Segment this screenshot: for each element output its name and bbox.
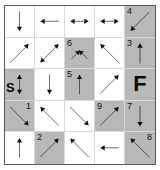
grid-cell-r5c3[interactable] <box>65 132 95 164</box>
cell-number-label: 8 <box>147 133 152 142</box>
arrow-up-icon <box>5 132 34 164</box>
grid-cell-r2c2[interactable] <box>35 38 65 70</box>
grid-cell-r3c4[interactable] <box>95 69 125 101</box>
arrow-left-right-icon <box>65 6 94 37</box>
grid-cell-r2c4[interactable] <box>95 38 125 70</box>
arrow-up-left-icon <box>35 101 64 132</box>
arrow-grid: 463S5F19728 <box>5 6 155 164</box>
grid-cell-r3c2[interactable] <box>35 69 65 101</box>
cell-number-label: 9 <box>97 102 102 111</box>
grid-cell-r1c2[interactable] <box>35 6 65 38</box>
arrow-down-right-icon <box>65 101 94 132</box>
grid-cell-r5c5[interactable]: 8 <box>125 132 155 164</box>
arrow-up-left-icon <box>95 38 124 69</box>
grid-cell-r1c4[interactable] <box>95 6 125 38</box>
cell-number-label: 2 <box>37 133 42 142</box>
grid-cell-r5c2[interactable]: 2 <box>35 132 65 164</box>
cell-number-label: 1 <box>26 102 31 111</box>
grid-cell-r4c4[interactable]: 9 <box>95 101 125 133</box>
arrow-up-right-down-left-icon <box>35 38 64 69</box>
arrow-down-icon <box>35 69 64 100</box>
finish-marker-label: F <box>133 73 146 95</box>
start-marker-label: S <box>6 81 15 94</box>
grid-cell-r4c5[interactable]: 7 <box>125 101 155 133</box>
grid-cell-r5c1[interactable] <box>5 132 35 164</box>
grid-cell-r3c1[interactable]: S <box>5 69 35 101</box>
grid-cell-r2c5[interactable]: 3 <box>125 38 155 70</box>
grid-cell-r1c5[interactable]: 4 <box>125 6 155 38</box>
arrow-left-right-icon <box>95 6 124 37</box>
cell-number-label: 5 <box>67 70 72 79</box>
grid-cell-r3c5[interactable]: F <box>125 69 155 101</box>
arrow-up-right-icon <box>5 38 34 69</box>
arrow-up-left-icon <box>65 132 94 164</box>
grid-cell-r1c1[interactable] <box>5 6 35 38</box>
grid-cell-r5c4[interactable] <box>95 132 125 164</box>
arrow-left-icon <box>95 132 124 164</box>
puzzle-frame: 463S5F19728 <box>4 5 156 165</box>
cell-number-label: 7 <box>127 102 132 111</box>
grid-cell-r1c3[interactable] <box>65 6 95 38</box>
arrow-left-icon <box>35 6 64 37</box>
grid-cell-r3c3[interactable]: 5 <box>65 69 95 101</box>
grid-cell-r2c1[interactable] <box>5 38 35 70</box>
grid-cell-r4c1[interactable]: 1 <box>5 101 35 133</box>
arrow-down-icon <box>5 6 34 37</box>
grid-cell-r4c3[interactable] <box>65 101 95 133</box>
arrow-up-right-icon <box>95 69 124 100</box>
cell-number-label: 3 <box>127 39 132 48</box>
cell-number-label: 4 <box>127 7 132 16</box>
grid-cell-r4c2[interactable] <box>35 101 65 133</box>
grid-cell-r2c3[interactable]: 6 <box>65 38 95 70</box>
cell-number-label: 6 <box>67 39 72 48</box>
